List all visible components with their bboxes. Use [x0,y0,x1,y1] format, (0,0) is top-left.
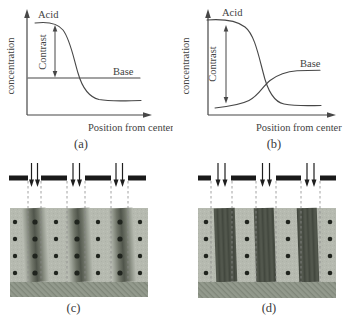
schematic-panel-c: (c) [0,160,173,320]
base-label: Base [113,66,134,77]
exposed-stripe [214,208,238,283]
x-axis-arrowhead-icon [143,112,152,118]
panel-d-caption: (d) [262,301,277,315]
contrast-arrowhead-down-icon [53,71,58,78]
plot-panel-a: Acid Contrast Base concentration Positio… [0,0,173,158]
panel-b-caption: (b) [267,137,282,151]
x-axis-arrowhead-icon [327,112,336,118]
exposed-regions-sharp [214,208,320,283]
contrast-label: Contrast [37,34,48,70]
contrast-arrowhead-up-icon [224,25,229,32]
mask-bar [128,176,146,181]
mask-bar [231,176,256,181]
schematic-panel-d: (d) [173,160,346,320]
plot-panel-b: Acid Contrast Base concentration Positio… [173,0,346,158]
figure-canvas: Acid Contrast Base concentration Positio… [0,0,346,320]
mask-bar [41,176,67,181]
exposed-stripe [254,208,277,283]
mask-bar [320,176,336,181]
y-axis-arrowhead-icon [24,9,30,18]
base-label: Base [300,58,321,69]
substrate-layer [10,282,148,297]
exposed-stripe [109,207,137,282]
mask-bar [276,176,301,181]
contrast-arrow [224,25,229,104]
panel-a-caption: (a) [74,137,88,151]
x-axis-label: Position from center [88,122,173,133]
base-curve [215,70,320,108]
mask-bar [85,176,111,181]
acid-label: Acid [222,7,243,18]
acid-label: Acid [38,9,59,20]
contrast-arrowhead-down-icon [224,97,229,104]
panel-c-caption: (c) [67,301,81,315]
exposed-stripe [66,207,94,282]
x-axis-label: Position from center [256,122,342,133]
contrast-label: Contrast [207,46,218,82]
exposed-stripe [297,208,320,283]
contrast-arrow [53,25,58,78]
mask-bar [9,176,28,181]
acid-curve [35,22,141,101]
y-axis-label: concentration [5,37,16,95]
contrast-arrowhead-up-icon [53,25,58,32]
substrate-layer [198,282,336,298]
y-axis-arrowhead-icon [205,9,211,18]
y-axis-label: concentration [180,37,191,95]
mask-bar [198,176,211,181]
